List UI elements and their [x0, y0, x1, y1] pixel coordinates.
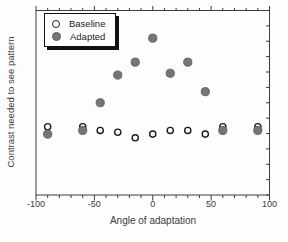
legend: Baseline Adapted — [44, 13, 116, 47]
x-tick-label: -50 — [88, 199, 101, 209]
x-tick-label: 50 — [206, 199, 216, 209]
data-point-baseline — [185, 127, 191, 133]
legend-item-adapted: Adapted — [52, 30, 105, 43]
x-axis-label: Angle of adaptation — [110, 215, 196, 226]
data-point-adapted — [201, 88, 209, 96]
data-point-baseline — [115, 129, 121, 135]
x-tick-label: 100 — [262, 199, 277, 209]
x-tick-label: 0 — [150, 199, 155, 209]
data-point-baseline — [97, 127, 103, 133]
data-point-baseline — [150, 131, 156, 137]
data-point-adapted — [149, 34, 157, 42]
x-tick-label: -100 — [27, 199, 45, 209]
data-point-adapted — [79, 126, 87, 134]
data-point-adapted — [184, 58, 192, 66]
data-point-adapted — [166, 69, 174, 77]
data-point-adapted — [96, 99, 104, 107]
data-point-baseline — [45, 124, 51, 130]
figure: -100-50050100 Contrast needed to see pat… — [0, 0, 288, 242]
data-point-adapted — [44, 130, 52, 138]
data-point-adapted — [131, 58, 139, 66]
legend-label-adapted: Adapted — [70, 31, 105, 42]
data-point-baseline — [132, 135, 138, 141]
data-point-adapted — [219, 126, 227, 134]
y-axis-label: Contrast needed to see pattern — [5, 37, 16, 168]
adapted-marker-icon — [52, 32, 61, 41]
legend-item-baseline: Baseline — [52, 17, 105, 30]
legend-label-baseline: Baseline — [69, 18, 105, 29]
data-point-baseline — [167, 127, 173, 133]
data-point-baseline — [202, 131, 208, 137]
data-point-adapted — [114, 71, 122, 79]
data-point-adapted — [254, 126, 262, 134]
baseline-marker-icon — [52, 20, 60, 28]
